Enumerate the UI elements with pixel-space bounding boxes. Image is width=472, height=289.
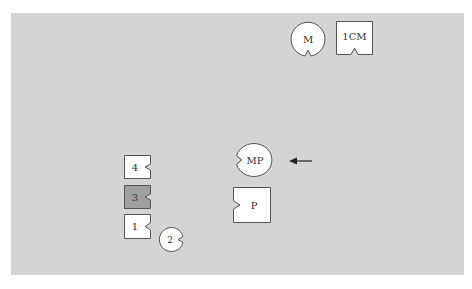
block-1-label: 1 — [124, 214, 151, 239]
p-square: P — [233, 187, 271, 223]
m-label: M — [290, 21, 326, 57]
arrow-left-icon — [289, 157, 313, 165]
mp-label: MP — [234, 143, 272, 177]
m-circle: M — [290, 21, 326, 57]
circle-2-label: 2 — [159, 227, 184, 252]
block-1: 1 — [124, 214, 151, 239]
block-3: 3 — [124, 185, 151, 209]
mp-circle: MP — [234, 143, 272, 177]
circle-2: 2 — [159, 227, 184, 252]
block-4-label: 4 — [124, 155, 151, 179]
pointer-arrow — [289, 157, 313, 165]
icm-label: 1CM — [336, 21, 373, 55]
block-3-label: 3 — [124, 185, 151, 209]
icm-square: 1CM — [336, 21, 373, 55]
p-label: P — [233, 187, 271, 223]
block-4: 4 — [124, 155, 151, 179]
